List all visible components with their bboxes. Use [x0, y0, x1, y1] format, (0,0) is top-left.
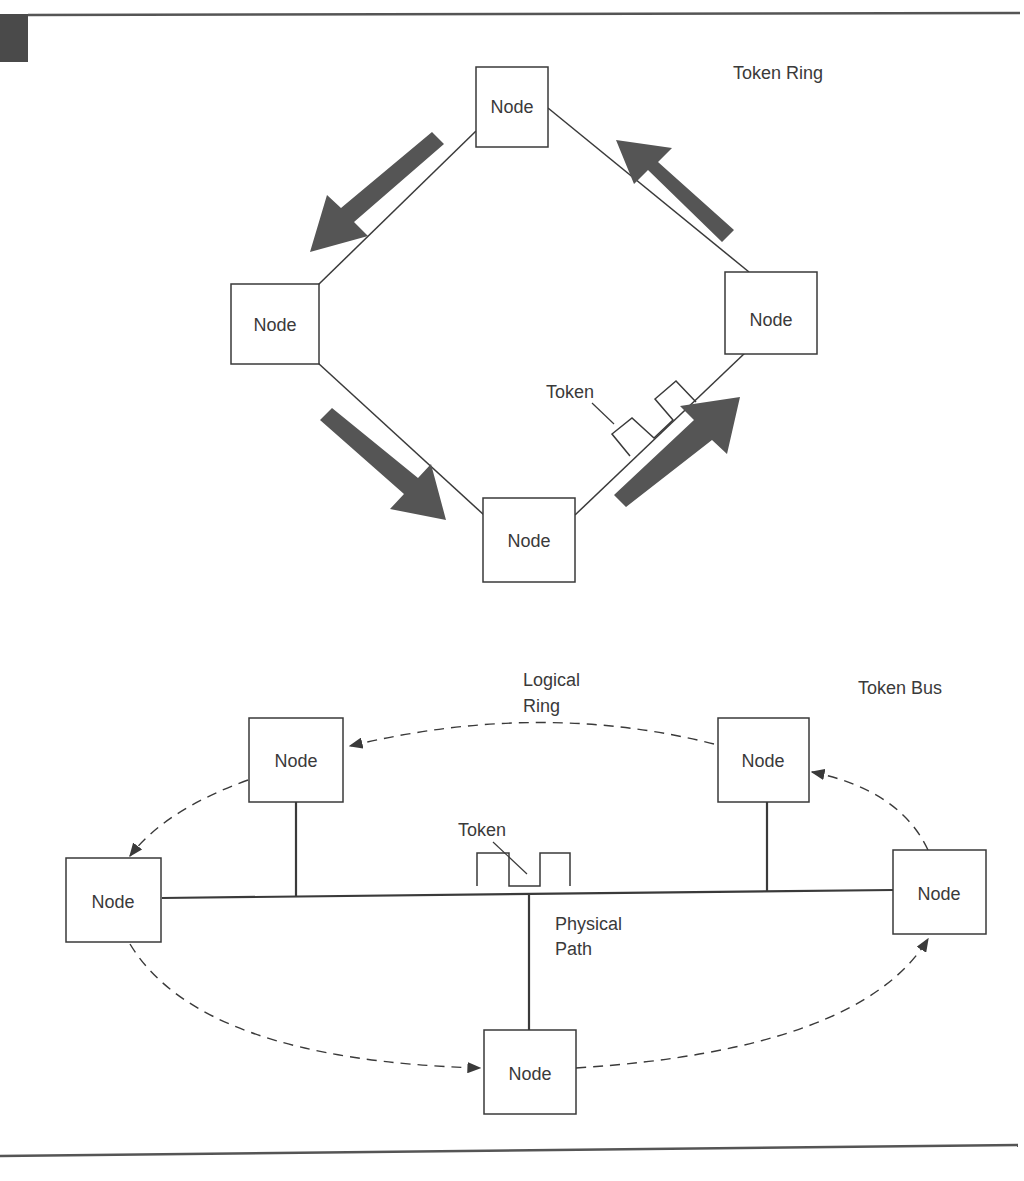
bus-node-right: Node — [893, 850, 986, 934]
ring-node-bottom: Node — [483, 498, 575, 582]
bus-node-upper-right: Node — [718, 718, 809, 802]
node-label: Node — [917, 884, 960, 904]
diagram-canvas: Token Ring Node Node Node Node — [0, 0, 1024, 1181]
token-ring-title: Token Ring — [733, 63, 823, 83]
bus-token-leader — [493, 842, 527, 874]
bus-node-bottom: Node — [484, 1030, 576, 1114]
ring-node-left: Node — [231, 284, 319, 364]
token-ring-diagram: Token Ring Node Node Node Node — [231, 63, 823, 582]
logical-ring-label-1: Logical — [523, 670, 580, 690]
bus-token-icon — [477, 853, 570, 886]
bottom-rule — [0, 1145, 1018, 1156]
bus-node-left: Node — [66, 858, 161, 942]
node-label: Node — [91, 892, 134, 912]
logical-ring-label-2: Ring — [523, 696, 560, 716]
arrow-left-bottom-icon — [320, 408, 446, 520]
bus-node-upper-left: Node — [249, 718, 343, 802]
arrow-right-top-icon — [616, 140, 734, 242]
ring-node-top: Node — [476, 67, 548, 147]
physical-path-label-1: Physical — [555, 914, 622, 934]
corner-tab — [0, 14, 28, 62]
token-bus-diagram: Token Bus Logical Ring Node Node — [66, 670, 986, 1114]
ring-token-label: Token — [546, 382, 594, 402]
flow-arrows — [310, 132, 740, 520]
ring-node-right: Node — [725, 272, 817, 354]
node-label: Node — [253, 315, 296, 335]
physical-path-label-2: Path — [555, 939, 592, 959]
node-label: Node — [490, 97, 533, 117]
token-bus-title: Token Bus — [858, 678, 942, 698]
ring-token-leader — [592, 403, 614, 424]
node-label: Node — [741, 751, 784, 771]
node-label: Node — [507, 531, 550, 551]
arrow-bottom-right-icon — [614, 397, 740, 507]
top-rule — [28, 13, 1020, 15]
node-label: Node — [274, 751, 317, 771]
arrow-top-left-icon — [310, 132, 444, 252]
node-label: Node — [749, 310, 792, 330]
physical-bus — [162, 800, 893, 1030]
node-label: Node — [508, 1064, 551, 1084]
bus-token-label: Token — [458, 820, 506, 840]
